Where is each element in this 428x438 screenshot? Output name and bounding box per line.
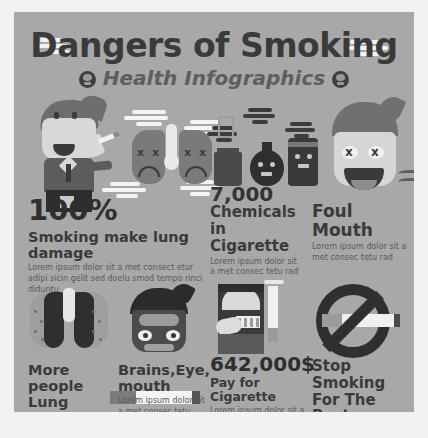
skull-badge-icon	[79, 71, 96, 88]
block-pay-for-cigarette: 642,000$ Pay for Cigarette Lorem ipsum d…	[210, 354, 306, 412]
stat-value: 642,000$	[210, 354, 306, 374]
barrel-band-shape	[288, 142, 318, 147]
brain-shape	[139, 314, 179, 326]
block-chemicals-in-cigarette: 7,000 Chemicals in Cigarette Lorem ipsum…	[210, 184, 304, 278]
flask-skull-eye-right	[270, 162, 275, 167]
barrel-skull-eye-left	[295, 154, 300, 159]
eye-left	[54, 112, 59, 119]
block-body-text: Lorem ipsum dolor sit a met consec tetu …	[210, 257, 304, 278]
lung-left-x-eyes: x x	[137, 146, 161, 159]
mouth-shape	[144, 344, 174, 351]
block-heading: Foul Mouth	[312, 202, 412, 240]
pupil-right	[171, 333, 176, 338]
tongue-shape	[351, 180, 377, 190]
smoke-wisp-shape	[264, 280, 284, 284]
lesion-dot	[98, 320, 101, 323]
block-heading: Pay for Cigarette	[210, 376, 306, 404]
lesion-dot	[41, 338, 44, 341]
lesion-dot	[99, 338, 102, 341]
beaker-icon	[214, 152, 242, 186]
lesion-dot	[34, 310, 37, 313]
block-heading: Chemicals in Cigarette	[210, 204, 304, 254]
block-stop-smoking: Stop Smoking For The Best Lorem ipsum do…	[312, 358, 412, 412]
subtitle-text: Health Infographics	[103, 66, 325, 90]
lesion-dot	[92, 310, 95, 313]
page-subtitle: Health Infographics	[14, 66, 414, 90]
infographic-poster: Dangers of Smoking Health Infographics	[14, 12, 414, 412]
cigarette-pack-illustration	[214, 284, 286, 356]
stink-wave-icon	[398, 178, 414, 185]
tie-shape	[66, 164, 71, 182]
sad-lungs-illustration: x x x x	[132, 130, 212, 186]
block-heading: Smoking make lung damage	[28, 229, 208, 261]
trachea-shape	[63, 288, 75, 322]
block-body-text: Lorem ipsum dolor sit a met consec tetu …	[118, 396, 206, 412]
stat-value: 7,000	[210, 184, 304, 204]
foul-mouth-face-illustration: x x	[324, 102, 414, 202]
block-foul-mouth: Foul Mouth Lorem ipsum dolor sit a met c…	[312, 202, 412, 263]
cigarette-filter-shape	[322, 314, 342, 327]
cigarette-tip-shape	[394, 314, 400, 327]
beaker-inner-shape	[218, 116, 234, 138]
block-heading: Stop Smoking For The Best	[312, 358, 412, 412]
barrel-skull-eye-right	[307, 154, 312, 159]
stink-wave-icon	[398, 170, 414, 177]
lesion-dot	[34, 330, 37, 333]
block-brains-eye-mouth: Brains,Eye, mouth Lorem ipsum dolor sit …	[118, 362, 206, 412]
eye-left-x-mark: x	[345, 145, 353, 159]
block-heading: Brains,Eye, mouth	[118, 362, 206, 394]
block-body-text: Lorem ipsum dolor sit a met consec tetu …	[312, 242, 412, 263]
barrel-skull-mouth	[298, 164, 309, 168]
chemical-containers-illustration	[210, 108, 320, 188]
smoke-puff-mid-a	[132, 110, 168, 128]
stat-value: 100%	[28, 196, 208, 225]
diseased-lungs-illustration	[30, 288, 108, 350]
lung-right-damaged-shape	[74, 292, 94, 348]
lesion-dot	[92, 330, 95, 333]
eye-right-x-mark: x	[371, 145, 379, 159]
lung-right-x-eyes: x x	[184, 146, 208, 159]
block-more-people-lung-cancer: More people Lung Cancer Lorem ipsum dolo…	[28, 362, 114, 412]
block-body-text: Lorem ipsum dolor sit a met consec tetu …	[210, 406, 306, 412]
cigarette-icon	[98, 131, 120, 144]
lung-left-damaged-shape	[44, 292, 64, 348]
darkened-face-illustration	[122, 288, 202, 352]
skull-badge-icon	[332, 71, 349, 88]
flask-skull-eye-left	[258, 162, 263, 167]
pack-bottom-shape	[218, 334, 264, 354]
lesion-dot	[40, 320, 43, 323]
trachea-shape	[166, 124, 177, 164]
flask-icon	[250, 150, 284, 186]
pupil-left	[143, 333, 148, 338]
pack-lid-shape	[218, 284, 264, 292]
block-heading: More people Lung Cancer	[28, 362, 114, 412]
flask-skull-mouth	[261, 172, 272, 176]
cigarette-filter-shape	[268, 328, 278, 342]
no-smoking-sign-illustration	[314, 282, 404, 360]
eye-right	[72, 112, 77, 119]
smoke-puff-chem-b	[248, 108, 275, 126]
page-title: Dangers of Smoking	[14, 26, 414, 65]
block-smoking-lung-damage: 100% Smoking make lung damage Lorem ipsu…	[28, 196, 208, 295]
